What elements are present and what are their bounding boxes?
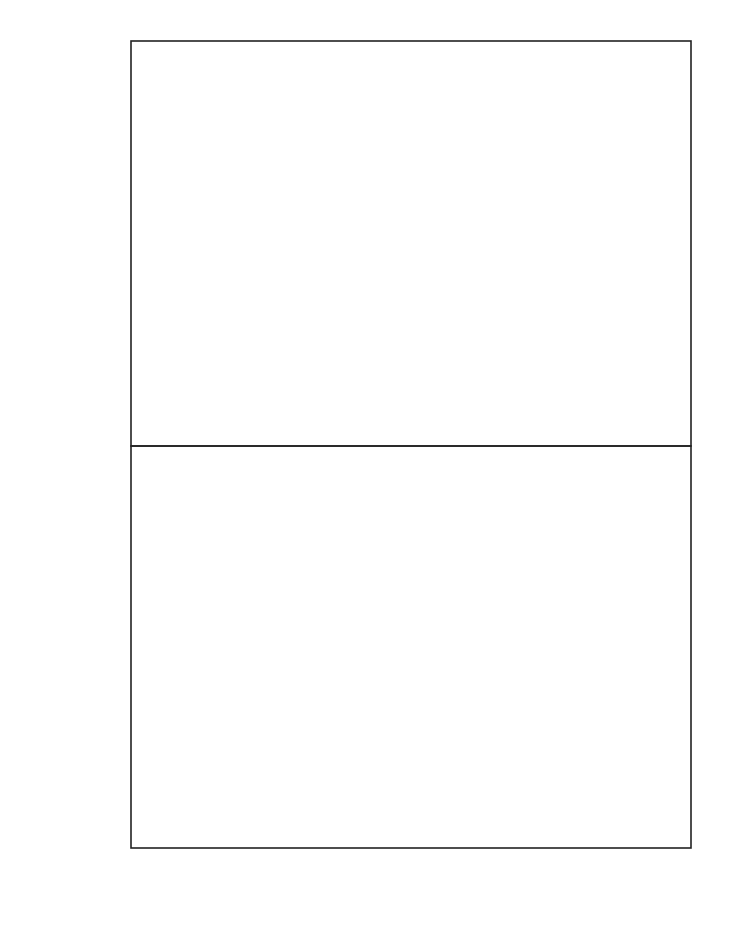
panel-b-frame [131,446,691,848]
figure [0,0,729,943]
panel-a-frame [131,41,691,446]
